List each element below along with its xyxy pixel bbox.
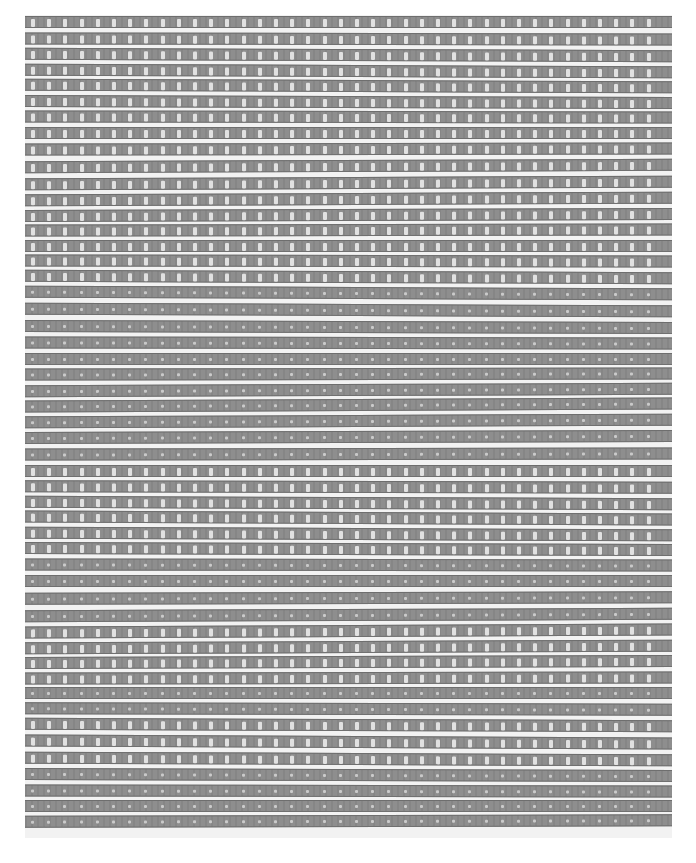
weave-opening (339, 180, 343, 188)
weave-opening (177, 499, 181, 507)
weave-opening (112, 213, 116, 221)
weave-opening (501, 114, 505, 122)
weave-opening (128, 545, 132, 553)
weave-opening (549, 275, 553, 283)
weave-opening (387, 453, 390, 456)
weave-opening (452, 756, 456, 764)
weave-opening (225, 580, 228, 583)
weave-opening (290, 692, 293, 695)
weave-opening (274, 292, 277, 295)
weave-opening (225, 163, 229, 171)
weave-opening (290, 243, 294, 251)
weft-band (25, 192, 672, 207)
weave-opening (452, 597, 455, 600)
weave-opening (112, 257, 116, 265)
weave-opening (306, 614, 309, 617)
weave-opening (452, 258, 456, 266)
weave-opening (290, 196, 294, 204)
weave-opening (355, 180, 359, 188)
weave-opening (47, 405, 50, 408)
weave-opening (549, 485, 553, 493)
weft-band (25, 575, 672, 587)
weave-opening (582, 19, 586, 27)
weave-opening (436, 163, 440, 171)
weave-opening (630, 403, 633, 406)
weave-opening (80, 228, 84, 236)
weave-opening (549, 195, 553, 203)
weave-opening (161, 325, 164, 328)
weave-opening (549, 708, 552, 711)
weave-opening (404, 227, 408, 235)
weave-opening (598, 327, 601, 330)
weave-opening (517, 227, 521, 235)
weave-opening (128, 197, 132, 205)
weave-opening (630, 373, 633, 376)
weave-opening (420, 739, 424, 747)
weave-opening (549, 436, 552, 439)
weave-opening (566, 468, 570, 476)
weave-opening (193, 660, 197, 668)
weave-opening (128, 514, 132, 522)
weave-opening (371, 309, 374, 312)
weave-opening (485, 310, 488, 313)
weave-opening (647, 613, 650, 616)
weave-opening (598, 130, 602, 138)
weave-opening (323, 515, 327, 523)
weave-opening (371, 358, 374, 361)
weave-opening (323, 19, 327, 27)
weave-opening (80, 197, 84, 205)
weft-band (25, 624, 672, 639)
weave-opening (112, 421, 115, 424)
weft-band (25, 398, 672, 413)
weave-opening (533, 501, 537, 509)
weave-opening (436, 146, 440, 154)
weave-opening (404, 99, 408, 107)
weave-opening (323, 530, 327, 538)
weave-opening (96, 113, 100, 121)
weave-opening (63, 82, 67, 90)
weave-opening (128, 228, 132, 236)
weave-opening (420, 580, 423, 583)
weave-opening (549, 516, 553, 524)
weave-opening (193, 738, 197, 746)
weave-opening (614, 757, 618, 765)
weave-opening (598, 358, 601, 361)
weave-opening (566, 146, 570, 154)
weave-opening (31, 273, 35, 281)
weave-opening (517, 130, 521, 138)
weave-opening (582, 53, 586, 61)
weave-opening (501, 468, 505, 476)
weave-opening (209, 342, 212, 345)
weave-opening (339, 597, 342, 600)
weave-opening (193, 325, 196, 328)
weave-opening (242, 374, 245, 377)
weave-opening (452, 196, 456, 204)
weave-opening (144, 468, 148, 476)
weave-opening (290, 83, 294, 91)
weave-opening (96, 147, 100, 155)
weave-opening (96, 629, 100, 637)
weave-opening (112, 721, 116, 729)
weave-opening (323, 404, 326, 407)
weave-opening (274, 722, 278, 730)
weave-opening (647, 211, 651, 219)
weave-opening (225, 708, 228, 711)
weave-opening (614, 485, 618, 493)
weave-opening (47, 454, 50, 457)
weave-opening (209, 645, 213, 653)
weave-opening (630, 820, 633, 823)
weave-opening (501, 531, 505, 539)
weave-opening (355, 820, 358, 823)
weft-band (25, 240, 672, 252)
weave-opening (598, 373, 601, 376)
weave-opening (323, 274, 327, 282)
weave-opening (112, 19, 116, 27)
weave-opening (63, 615, 66, 618)
weave-opening (80, 437, 83, 440)
weave-opening (436, 453, 439, 456)
weave-opening (177, 530, 181, 538)
weft-band (25, 353, 672, 365)
weave-opening (582, 293, 585, 296)
weave-opening (614, 195, 618, 203)
weft-band (25, 254, 672, 267)
